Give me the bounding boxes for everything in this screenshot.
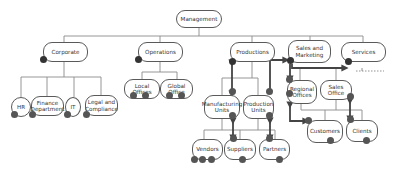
port-dot <box>327 137 334 144</box>
node-label: Legal and Compliance <box>85 99 118 112</box>
port-dot <box>229 88 236 95</box>
port-dot <box>286 76 293 83</box>
port-dot <box>142 92 149 99</box>
port-dot <box>230 135 237 142</box>
port-dot <box>29 111 36 118</box>
node-label: Partners <box>263 146 286 152</box>
node-label: Clients <box>352 128 371 134</box>
node-label: Productions <box>236 49 269 55</box>
port-dot <box>229 58 236 65</box>
port-dot <box>305 117 312 124</box>
port-dot <box>208 156 215 163</box>
node-management: Management <box>176 10 222 28</box>
port-dot <box>347 93 354 100</box>
node-label: Sales Office <box>322 84 350 97</box>
port-dot <box>276 156 283 163</box>
node-label: Corporate <box>52 49 80 55</box>
port-dot <box>363 137 370 144</box>
port-dot <box>191 156 198 163</box>
port-dot <box>287 57 294 64</box>
port-dot <box>266 112 273 119</box>
node-label: Management <box>181 16 218 22</box>
node-label: Vendors <box>196 146 219 152</box>
node-label: Customers <box>310 128 340 134</box>
node-label: Manufacturing Units <box>202 101 243 114</box>
port-dot <box>266 88 273 95</box>
node-global-office: Global Office <box>160 79 193 99</box>
port-dot <box>345 58 352 65</box>
port-dot <box>199 156 206 163</box>
node-sales-and-marketing: Sales and Marketing <box>288 40 331 63</box>
node-label: Operations <box>145 49 176 55</box>
node-label: IT <box>70 104 75 110</box>
port-dot <box>40 56 47 63</box>
org-chart-canvas: Management Corporate Operations Producti… <box>0 0 394 173</box>
node-operations: Operations <box>138 42 183 62</box>
node-label: Sales and Marketing <box>290 45 329 58</box>
node-clients: Clients <box>346 120 378 142</box>
port-dot <box>166 92 173 99</box>
node-partners: Partners <box>259 139 290 160</box>
port-dot <box>11 111 18 118</box>
node-label: Services <box>352 49 376 55</box>
port-dot <box>83 111 90 118</box>
node-productions: Productions <box>230 42 275 62</box>
port-dot <box>239 156 246 163</box>
port-dot <box>64 111 71 118</box>
port-dot <box>229 112 236 119</box>
node-customers: Customers <box>307 120 343 143</box>
port-dot <box>130 92 137 99</box>
node-label: Suppliers <box>227 146 253 152</box>
port-dot <box>286 90 293 97</box>
port-dot <box>178 92 185 99</box>
node-label: Finance Department <box>31 100 65 113</box>
node-corporate: Corporate <box>43 42 88 62</box>
node-label: HR <box>17 104 25 110</box>
port-dot <box>347 116 354 123</box>
port-dot <box>135 56 142 63</box>
port-dot <box>266 135 273 142</box>
